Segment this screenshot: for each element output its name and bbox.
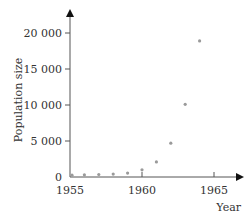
- y-ticks: 05 00010 00015 00020 000: [24, 27, 71, 184]
- data-point: [70, 174, 73, 177]
- y-tick-label: 20 000: [24, 27, 63, 40]
- axes: [70, 13, 240, 177]
- data-point: [155, 160, 158, 163]
- data-point: [198, 39, 201, 42]
- data-point: [169, 142, 172, 145]
- x-ticks: 195519601965: [56, 172, 228, 197]
- data-points: [70, 39, 201, 176]
- data-point: [83, 173, 86, 176]
- y-tick-label: 10 000: [24, 99, 63, 112]
- x-tick-label: 1965: [200, 184, 228, 197]
- y-tick-label: 5 000: [31, 135, 63, 148]
- x-axis-label: Year: [215, 201, 241, 214]
- data-point: [97, 173, 100, 176]
- x-tick-label: 1955: [56, 184, 84, 197]
- scatter-chart: 195519601965 05 00010 00015 00020 000 Po…: [0, 0, 252, 221]
- data-point: [184, 103, 187, 106]
- data-point: [126, 171, 129, 174]
- y-axis-label: Population size: [12, 58, 25, 142]
- y-tick-label: 15 000: [24, 63, 63, 76]
- x-tick-label: 1960: [128, 184, 156, 197]
- data-point: [112, 173, 115, 176]
- y-tick-label: 0: [55, 171, 62, 184]
- data-point: [140, 168, 143, 171]
